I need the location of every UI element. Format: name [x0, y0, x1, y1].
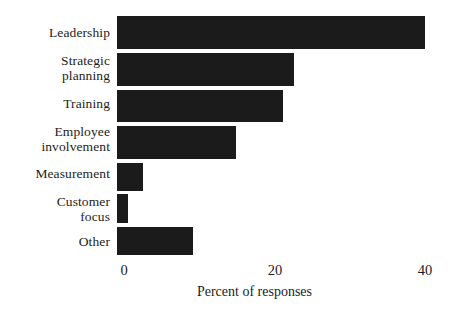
category-label-strategic-planning: Strategic planning — [0, 53, 110, 83]
x-axis-title: Percent of responses — [0, 283, 459, 301]
x-tick-0: 0 — [120, 261, 127, 279]
category-label-training: Training — [0, 96, 110, 111]
category-label-employee-involvement: Employee involvement — [0, 124, 110, 154]
category-axis-labels: Leadership Strategic planning Training E… — [0, 0, 110, 258]
category-label-measurement: Measurement — [0, 166, 110, 181]
x-axis-title-text: Percent of responses — [197, 283, 312, 301]
category-label-line: Leadership — [49, 25, 110, 40]
plot-area — [117, 0, 459, 258]
category-label-line: Customer — [57, 194, 110, 209]
bar-employee-involvement — [117, 126, 236, 159]
bar-measurement — [117, 163, 143, 191]
category-label-line: Employee — [54, 124, 110, 139]
bar-strategic-planning — [117, 53, 294, 86]
category-label-line: Training — [63, 96, 110, 111]
category-label-line: Other — [79, 234, 110, 249]
x-tick-20: 20 — [268, 261, 283, 279]
bar-chart: Leadership Strategic planning Training E… — [0, 0, 459, 312]
category-label-line: focus — [0, 209, 110, 224]
category-label-line: Measurement — [35, 166, 110, 181]
category-label-line: involvement — [0, 139, 110, 154]
category-label-line: Strategic — [61, 53, 110, 68]
bar-other — [117, 227, 193, 255]
category-label-other: Other — [0, 234, 110, 249]
category-label-leadership: Leadership — [0, 25, 110, 40]
category-label-line: planning — [0, 68, 110, 83]
bar-customer-focus — [117, 194, 128, 223]
x-axis-ticks: 0 20 40 — [0, 258, 459, 284]
bar-training — [117, 90, 283, 122]
category-label-customer-focus: Customer focus — [0, 194, 110, 224]
x-tick-40: 40 — [418, 261, 433, 279]
bar-leadership — [117, 16, 425, 49]
